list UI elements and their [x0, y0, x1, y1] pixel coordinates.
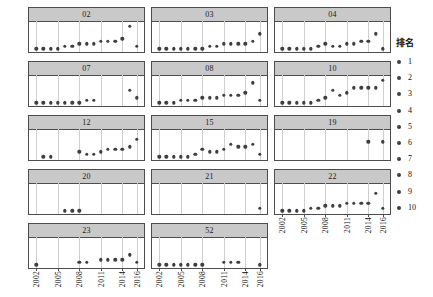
- panel-label: 15: [205, 119, 213, 127]
- plot-area-04: [275, 21, 390, 52]
- panel-label: 10: [328, 65, 336, 73]
- data-point: [208, 45, 211, 48]
- data-point: [165, 101, 168, 104]
- panel-label: 22: [328, 173, 336, 181]
- plot-area-03: [152, 21, 267, 52]
- gridline: [282, 129, 283, 160]
- data-point: [121, 258, 124, 261]
- data-point: [222, 42, 225, 45]
- legend-item-3[interactable]: 3: [388, 86, 433, 102]
- gridline: [325, 21, 326, 52]
- legend-item-label: 1: [408, 58, 412, 66]
- legend-item-7[interactable]: 7: [388, 151, 433, 167]
- data-point: [78, 261, 81, 264]
- legend-item-5[interactable]: 5: [388, 119, 433, 135]
- data-point: [331, 204, 334, 207]
- x-tick-label: 2002: [155, 271, 164, 287]
- data-point: [316, 99, 319, 102]
- gridline: [79, 21, 80, 52]
- data-point: [215, 150, 218, 153]
- legend-item-label: 7: [408, 155, 412, 163]
- panel-04: 04: [274, 7, 391, 53]
- panel-15: 15: [151, 115, 268, 161]
- data-point: [172, 101, 175, 104]
- gridline: [122, 183, 123, 214]
- legend-item-1[interactable]: 1: [388, 54, 433, 70]
- x-axis-col-2: 200220052008201120142016: [274, 217, 391, 261]
- legend-title: 排名: [396, 36, 433, 49]
- panel-strip-20: 20: [29, 170, 144, 184]
- data-point: [99, 40, 102, 43]
- gridline: [137, 183, 138, 214]
- x-tick-label: 2005: [300, 217, 309, 233]
- legend-dot-icon: [397, 190, 401, 194]
- legend-dot-icon: [397, 157, 401, 161]
- data-point: [85, 153, 88, 156]
- legend-item-2[interactable]: 2: [388, 70, 433, 86]
- data-point: [360, 40, 363, 43]
- data-point: [215, 45, 218, 48]
- legend-item-6[interactable]: 6: [388, 135, 433, 151]
- data-point: [374, 32, 377, 35]
- gridline: [245, 21, 246, 52]
- gridline: [58, 129, 59, 160]
- gridline: [383, 129, 384, 160]
- data-point: [135, 96, 138, 99]
- data-point: [63, 45, 66, 48]
- data-point: [121, 37, 124, 40]
- legend-item-label: 10: [408, 204, 416, 212]
- data-point: [316, 207, 319, 210]
- plot-area-19: [275, 129, 390, 160]
- gridline: [245, 183, 246, 214]
- panel-52: 52: [151, 223, 268, 269]
- data-point: [201, 148, 204, 151]
- gridline: [368, 75, 369, 106]
- data-point: [78, 101, 81, 104]
- data-point: [360, 86, 363, 89]
- data-point: [49, 101, 52, 104]
- panel-strip-12: 12: [29, 116, 144, 130]
- panel-12: 12: [28, 115, 145, 161]
- gridline: [137, 75, 138, 106]
- gridline: [36, 129, 37, 160]
- legend-dot-icon: [397, 125, 401, 129]
- x-tick-label: 2005: [177, 271, 186, 287]
- gridline: [224, 21, 225, 52]
- data-point: [302, 101, 305, 104]
- data-point: [42, 155, 45, 158]
- gridline: [122, 129, 123, 160]
- data-point: [374, 192, 377, 195]
- data-point: [367, 40, 370, 43]
- legend-item-label: 6: [408, 139, 412, 147]
- legend-item-10[interactable]: 10: [388, 200, 433, 216]
- x-tick-label: 2014: [364, 217, 373, 233]
- data-point: [135, 138, 138, 141]
- data-point: [42, 101, 45, 104]
- panel-strip-10: 10: [275, 62, 390, 76]
- gridline: [224, 129, 225, 160]
- legend-item-9[interactable]: 9: [388, 184, 433, 200]
- data-point: [331, 45, 334, 48]
- legend-item-8[interactable]: 8: [388, 167, 433, 183]
- data-point: [338, 45, 341, 48]
- data-point: [135, 261, 138, 264]
- data-point: [222, 94, 225, 97]
- gridline: [202, 183, 203, 214]
- panel-07: 07: [28, 61, 145, 107]
- panel-08: 08: [151, 61, 268, 107]
- gridline: [347, 183, 348, 214]
- gridline: [304, 129, 305, 160]
- data-point: [258, 207, 261, 210]
- data-point: [222, 261, 225, 264]
- legend-item-4[interactable]: 4: [388, 103, 433, 119]
- data-point: [309, 207, 312, 210]
- gridline: [368, 183, 369, 214]
- gridline: [202, 129, 203, 160]
- data-point: [324, 204, 327, 207]
- data-point: [251, 143, 254, 146]
- data-point: [295, 47, 298, 50]
- data-point: [49, 47, 52, 50]
- panel-strip-07: 07: [29, 62, 144, 76]
- data-point: [172, 263, 175, 266]
- data-point: [222, 148, 225, 151]
